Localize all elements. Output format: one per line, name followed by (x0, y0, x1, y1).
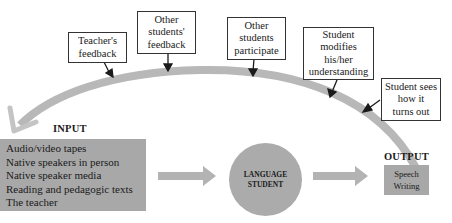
callout-line: Teacher's (78, 35, 117, 48)
callout-teachers-feedback: Teacher's feedback (68, 32, 127, 63)
callout-line: modifies (320, 41, 357, 54)
callout-line: how it (398, 93, 425, 106)
input-heading: INPUT (53, 123, 87, 134)
callout-line: students' (148, 26, 184, 39)
callout-student-modifies: Student modifies his/her understanding (303, 27, 374, 80)
callout-line: Student (322, 29, 354, 42)
output-list: Speech Writing (384, 165, 429, 195)
callout-other-students-participate: Other students participate (227, 17, 286, 60)
student-to-output-arrow-icon (313, 166, 368, 186)
output-item: Writing (384, 180, 429, 192)
callout-line: students (239, 32, 273, 45)
callout-line: Other (155, 14, 179, 27)
center-line: LANGUAGE (244, 170, 287, 180)
output-heading: OUTPUT (384, 151, 429, 162)
input-item: Native speaker media (6, 169, 140, 183)
center-line: STUDENT (248, 180, 283, 190)
callout-line: participate (234, 45, 278, 58)
input-item: The teacher (6, 196, 140, 210)
callout-line: his/her (324, 54, 353, 67)
callout-student-sees: Student sees how it turns out (381, 78, 441, 121)
callout-line: feedback (148, 39, 186, 52)
input-list: Audio/video tapes Native speakers in per… (0, 139, 146, 211)
input-item: Reading and pedagogic texts (6, 183, 140, 197)
input-item: Native speakers in person (6, 156, 140, 170)
output-item: Speech (384, 168, 429, 180)
callout-line: Other (245, 20, 269, 33)
callout-line: understanding (309, 66, 369, 79)
callout-line: Student sees (385, 81, 437, 94)
callout-other-students-feedback: Other students' feedback (137, 11, 196, 54)
callout-line: feedback (79, 48, 117, 61)
input-to-student-arrow-icon (158, 166, 216, 186)
callout-line: turns out (392, 106, 429, 119)
language-student-circle: LANGUAGE STUDENT (229, 143, 302, 216)
input-item: Audio/video tapes (6, 142, 140, 156)
